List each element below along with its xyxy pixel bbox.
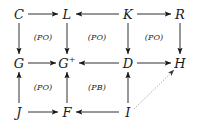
square-label-po-top-right: (PO): [145, 34, 164, 42]
node-G: G: [14, 57, 25, 70]
node-R: R: [175, 8, 185, 21]
square-label-pb-bottom-middle: (PB): [88, 84, 106, 92]
node-layer: CLKRGG+DHJFI (PO)(PO)(PO)(PO)(PB): [0, 0, 210, 126]
node-label: L: [63, 7, 72, 22]
node-label: G: [14, 56, 25, 71]
node-I: I: [125, 106, 130, 119]
node-D: D: [123, 57, 134, 70]
node-label: G: [58, 56, 69, 71]
node-C: C: [14, 8, 24, 21]
node-label: F: [62, 105, 71, 120]
node-K: K: [123, 8, 133, 21]
node-F: F: [62, 106, 71, 119]
node-label: I: [125, 105, 130, 120]
node-label: R: [175, 7, 185, 22]
node-J: J: [16, 106, 21, 119]
commutative-diagram: CLKRGG+DHJFI (PO)(PO)(PO)(PO)(PB): [0, 0, 210, 126]
node-label: D: [123, 56, 134, 71]
node-label: H: [174, 56, 186, 71]
square-label-po-bottom-left: (PO): [34, 84, 53, 92]
square-label-po-top-left: (PO): [34, 34, 53, 42]
node-L: L: [63, 8, 72, 21]
node-superscript: +: [69, 55, 76, 64]
node-label: C: [14, 7, 24, 22]
node-label: J: [16, 105, 21, 120]
node-Gp: G+: [58, 57, 76, 70]
square-label-po-top-middle: (PO): [88, 34, 107, 42]
node-H: H: [174, 57, 186, 70]
node-label: K: [123, 7, 133, 22]
